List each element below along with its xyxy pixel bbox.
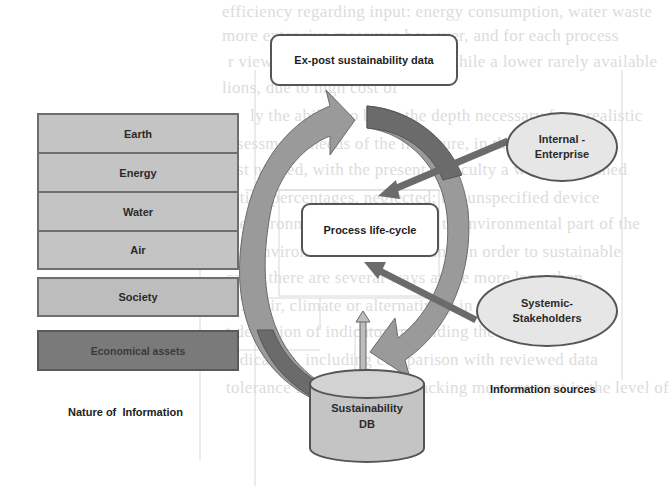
box-label: Ex-post sustainability data [294,54,433,66]
information-sources-caption: Information sources [490,383,596,395]
box-label: Process life-cycle [324,224,417,236]
source-label-line: Stakeholders [512,311,581,326]
process-life-cycle-box: Process life-cycle [301,203,439,257]
source-label-line: Systemic- [521,296,573,311]
internal-enterprise-source: Internal - Enterprise [506,112,618,182]
db-up-arrow-icon [356,311,370,374]
db-label-line: DB [310,416,424,432]
ex-post-sustainability-data-box: Ex-post sustainability data [270,34,458,86]
db-label-line: Sustainability [310,400,424,416]
source-label-line: Internal - [539,132,585,147]
source-label-line: Enterprise [535,147,589,162]
systemic-stakeholders-source: Systemic- Stakeholders [476,275,618,347]
sustainability-db-label: Sustainability DB [310,400,424,432]
